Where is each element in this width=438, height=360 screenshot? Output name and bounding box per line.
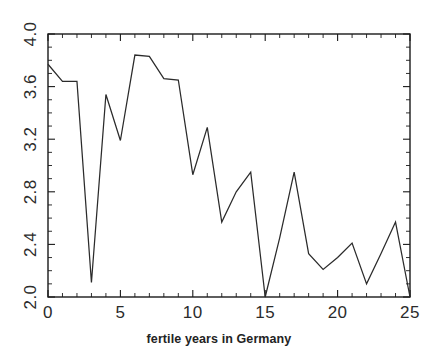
x-tick-label: 10 <box>183 303 203 322</box>
y-tick-label: 3.6 <box>21 74 40 99</box>
x-tick-label: 5 <box>115 303 125 322</box>
y-tick-label-group: 2.02.42.83.23.64.0 <box>21 21 40 309</box>
x-tick-label: 25 <box>400 303 420 322</box>
y-tick-label: 3.2 <box>21 127 40 152</box>
x-tick-label: 15 <box>255 303 275 322</box>
y-tick-label: 2.0 <box>21 284 40 309</box>
y-tick-label: 2.8 <box>21 179 40 204</box>
y-tick-label: 2.4 <box>21 232 40 257</box>
y-tick-label: 4.0 <box>21 21 40 46</box>
line-chart-plot: 2.02.42.83.23.64.0 0510152025 <box>0 0 438 360</box>
plot-frame <box>48 34 410 297</box>
tick-mark-group <box>48 34 410 297</box>
x-axis-label: fertile years in Germany <box>0 332 438 346</box>
x-tick-label-group: 0510152025 <box>43 303 420 322</box>
data-series-line <box>48 55 410 297</box>
x-tick-label: 0 <box>43 303 53 322</box>
x-tick-label: 20 <box>328 303 348 322</box>
chart-figure: 2.02.42.83.23.64.0 0510152025 fertile ye… <box>0 0 438 360</box>
